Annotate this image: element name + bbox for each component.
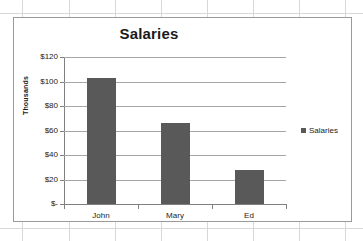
sheet-gridline-horizontal [0, 13, 363, 14]
chart-title: Salaries [14, 25, 284, 42]
chart-legend[interactable]: Salaries [301, 126, 338, 135]
y-axis-tick [60, 155, 64, 156]
y-axis-tick-label: $100 [40, 77, 58, 86]
sheet-gridline-horizontal [0, 228, 363, 229]
y-axis-tick [60, 57, 64, 58]
x-axis-tick [138, 205, 139, 209]
y-axis-tick-label: $120 [40, 52, 58, 61]
legend-label-salaries: Salaries [309, 126, 338, 135]
bar-mary[interactable] [161, 123, 190, 204]
chart-container[interactable]: Salaries Thousands $120$100$80$60$40$20$… [13, 17, 352, 222]
x-axis-label-mary: Mary [138, 211, 212, 220]
y-axis-tick [60, 131, 64, 132]
y-axis-tick [60, 180, 64, 181]
x-axis-label-john: John [64, 211, 138, 220]
bar-ed[interactable] [235, 170, 264, 204]
x-axis-line [64, 204, 287, 205]
bar-john[interactable] [87, 78, 116, 204]
y-axis-tick-label: $80 [45, 101, 58, 110]
y-axis-tick-label: $- [51, 199, 58, 208]
y-axis-tick-label: $40 [45, 150, 58, 159]
y-axis-tick [60, 106, 64, 107]
legend-swatch-salaries [301, 128, 306, 133]
y-axis-tick-label: $60 [45, 126, 58, 135]
x-axis-tick [286, 205, 287, 209]
y-axis-tick-label: $20 [45, 175, 58, 184]
x-axis-tick [212, 205, 213, 209]
gridline [64, 57, 286, 58]
plot-area: JohnMaryEd [64, 57, 286, 204]
x-axis-tick [64, 205, 65, 209]
y-axis-tick-labels: $120$100$80$60$40$20$- [14, 57, 58, 205]
y-axis-tick [60, 82, 64, 83]
x-axis-label-ed: Ed [212, 211, 286, 220]
